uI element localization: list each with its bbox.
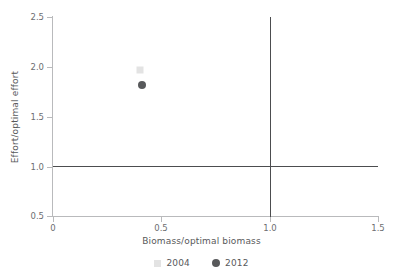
y-tick-mark-1.0 bbox=[47, 167, 52, 168]
chart-legend: 2004 2012 bbox=[0, 258, 403, 268]
legend-item-2004[interactable]: 2004 bbox=[154, 258, 190, 268]
x-tick-label-1.0: 1.0 bbox=[263, 223, 277, 233]
legend-item-2012[interactable]: 2012 bbox=[212, 258, 249, 268]
legend-label-2004: 2004 bbox=[166, 258, 190, 268]
x-tick-label-1.5: 1.5 bbox=[371, 223, 385, 233]
y-tick-label-1.0: 1.0 bbox=[18, 162, 44, 172]
legend-circle-icon bbox=[212, 259, 220, 267]
legend-label-2012: 2012 bbox=[225, 258, 249, 268]
scatter-chart-figure: 2.5 2.0 1.5 1.0 0.5 0 0.5 1.0 1.5 Biomas… bbox=[0, 0, 403, 280]
x-tick-mark-1.0 bbox=[270, 217, 271, 222]
data-point-2004[interactable] bbox=[136, 66, 143, 73]
y-tick-label-1.5: 1.5 bbox=[18, 112, 44, 122]
y-tick-mark-2.5 bbox=[47, 17, 52, 18]
plot-area bbox=[53, 17, 378, 216]
y-tick-mark-0.5 bbox=[47, 216, 52, 217]
x-tick-mark-1.5 bbox=[378, 217, 379, 222]
x-tick-label-0: 0 bbox=[50, 223, 55, 233]
y-tick-label-2.0: 2.0 bbox=[18, 62, 44, 72]
x-tick-label-0.5: 0.5 bbox=[154, 223, 168, 233]
x-tick-mark-0.5 bbox=[161, 217, 162, 222]
y-tick-mark-1.5 bbox=[47, 117, 52, 118]
y-axis-title: Effort/optimal effort bbox=[10, 47, 20, 187]
y-tick-label-0.5: 0.5 bbox=[18, 211, 44, 221]
x-axis-line bbox=[52, 216, 379, 217]
x-tick-mark-0 bbox=[53, 217, 54, 222]
x-axis-title: Biomass/optimal biomass bbox=[0, 236, 403, 246]
y-tick-label-2.5: 2.5 bbox=[18, 12, 44, 22]
y-tick-mark-2.0 bbox=[47, 67, 52, 68]
legend-square-icon bbox=[154, 260, 161, 267]
data-point-2012[interactable] bbox=[138, 81, 146, 89]
